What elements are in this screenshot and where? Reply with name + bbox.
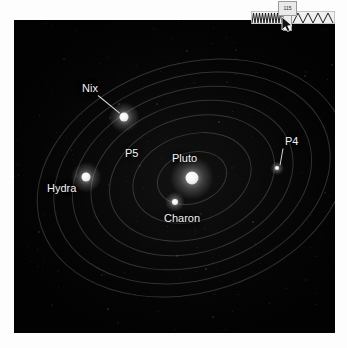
pluto-body — [186, 172, 199, 185]
label-p5: P5 — [125, 148, 138, 159]
orbit-rings — [14, 20, 335, 333]
label-hydra: Hydra — [47, 183, 76, 194]
charon-body — [172, 199, 178, 205]
tooltip-value-box: 115 — [278, 1, 297, 16]
pluto-system-image: NixP5PlutoP4HydraCharon — [14, 20, 335, 333]
page-root: NixP5PlutoP4HydraCharon 115 — [0, 0, 347, 348]
label-pluto: Pluto — [172, 153, 197, 164]
nix-body — [120, 113, 129, 122]
p4-body — [275, 166, 279, 170]
label-p4: P4 — [285, 136, 298, 147]
hydra-body — [82, 173, 91, 182]
orbit-ring-6 — [14, 20, 335, 333]
mouse-arrow-cursor — [281, 17, 294, 32]
label-nix: Nix — [82, 83, 98, 94]
label-charon: Charon — [164, 213, 200, 224]
